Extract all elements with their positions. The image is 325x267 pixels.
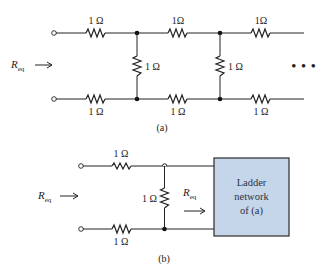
req-label-a: Req bbox=[10, 58, 25, 73]
resistor-top-1 bbox=[86, 29, 105, 37]
label-shunt: 1 Ω bbox=[142, 193, 157, 204]
figure-a: 1 Ω 1Ω 1Ω 1 Ω 1 Ω 1 Ω 1 Ω 1 Ω Req • • • … bbox=[10, 15, 317, 134]
arrow-right-icon bbox=[184, 208, 205, 214]
caption-a: (a) bbox=[156, 122, 167, 134]
resistor-bottom-2 bbox=[168, 95, 187, 103]
node-crossover bbox=[163, 164, 167, 166]
resistor-bottom bbox=[112, 225, 131, 233]
input-terminal-top bbox=[52, 31, 57, 36]
label-top-3: 1Ω bbox=[255, 15, 267, 26]
continuation-dots: • • • bbox=[291, 58, 316, 73]
label-top-2: 1Ω bbox=[172, 15, 184, 26]
resistor-top-2 bbox=[168, 29, 187, 37]
resistor-shunt-1 bbox=[133, 56, 141, 76]
input-terminal-bottom bbox=[79, 227, 84, 232]
req-label-b-inner: Req bbox=[182, 186, 197, 201]
arrow-right-icon bbox=[35, 62, 52, 68]
resistor-top-3 bbox=[251, 29, 270, 37]
label-top: 1 Ω bbox=[114, 148, 129, 159]
label-top-1: 1 Ω bbox=[89, 15, 104, 26]
box-line-2: network bbox=[234, 191, 269, 202]
input-terminal-top bbox=[79, 164, 84, 169]
resistor-shunt bbox=[161, 188, 169, 208]
figure-b: 1 Ω 1 Ω 1 Ω Req Req Ladder network of (a… bbox=[37, 148, 289, 265]
label-bottom-2: 1 Ω bbox=[171, 106, 186, 117]
label-shunt-1: 1 Ω bbox=[145, 61, 160, 72]
label-bottom-3: 1 Ω bbox=[254, 106, 269, 117]
req-label-b-outer: Req bbox=[37, 189, 52, 204]
resistor-shunt-2 bbox=[216, 56, 224, 76]
arrow-right-icon bbox=[60, 193, 78, 199]
label-bottom-1: 1 Ω bbox=[89, 106, 104, 117]
caption-b: (b) bbox=[158, 253, 170, 265]
ladder-network-diagram: 1 Ω 1Ω 1Ω 1 Ω 1 Ω 1 Ω 1 Ω 1 Ω Req • • • … bbox=[0, 0, 325, 267]
input-terminal-bottom bbox=[52, 97, 57, 102]
resistor-top bbox=[112, 163, 131, 169]
label-bottom: 1 Ω bbox=[114, 236, 129, 247]
box-line-1: Ladder bbox=[237, 177, 267, 188]
resistor-bottom-3 bbox=[251, 95, 270, 103]
label-shunt-2: 1 Ω bbox=[228, 61, 243, 72]
box-line-3: of (a) bbox=[240, 205, 264, 217]
resistor-bottom-1 bbox=[86, 95, 105, 103]
